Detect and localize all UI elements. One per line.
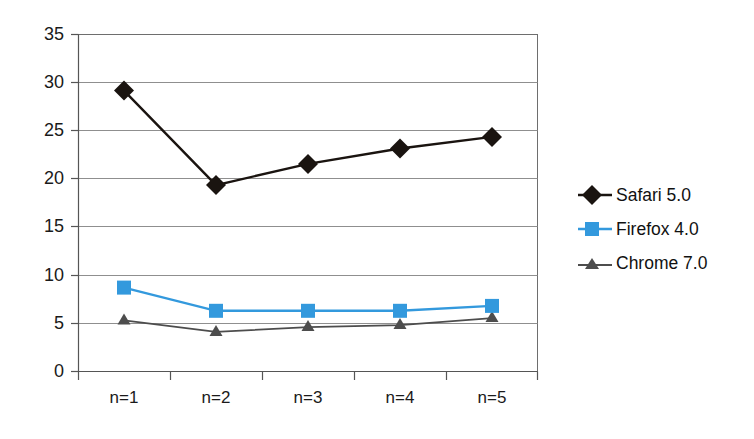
y-tick-label-10: 10 bbox=[18, 266, 64, 284]
square-marker-icon bbox=[578, 218, 612, 240]
legend-label-chrome: Chrome 7.0 bbox=[612, 253, 707, 274]
x-tick-label-n5: n=5 bbox=[446, 389, 538, 407]
legend-label-firefox: Firefox 4.0 bbox=[612, 219, 699, 240]
y-tick-label-15: 15 bbox=[18, 217, 64, 235]
chart-legend: Safari 5.0 Firefox 4.0 Chrome 7.0 bbox=[578, 178, 754, 280]
y-tick-label-30: 30 bbox=[18, 73, 64, 91]
y-tick-label-5: 5 bbox=[18, 314, 64, 332]
y-tick-label-25: 25 bbox=[18, 121, 64, 139]
y-tick-label-0: 0 bbox=[18, 362, 64, 380]
chart-container: 35 30 25 20 15 10 5 0 n=1 n=2 n=3 n=4 n=… bbox=[0, 0, 754, 439]
y-tick-label-20: 20 bbox=[18, 169, 64, 187]
x-tick-label-n4: n=4 bbox=[354, 389, 446, 407]
y-axis bbox=[71, 35, 79, 372]
legend-item-firefox: Firefox 4.0 bbox=[578, 212, 754, 246]
legend-item-safari: Safari 5.0 bbox=[578, 178, 754, 212]
legend-item-chrome: Chrome 7.0 bbox=[578, 246, 754, 280]
x-tick-label-n1: n=1 bbox=[78, 389, 170, 407]
triangle-marker-icon bbox=[578, 252, 612, 274]
x-tick-label-n3: n=3 bbox=[262, 389, 354, 407]
y-tick-label-35: 35 bbox=[18, 25, 64, 43]
legend-label-safari: Safari 5.0 bbox=[612, 185, 691, 206]
x-axis bbox=[79, 372, 538, 381]
diamond-marker-icon bbox=[578, 184, 612, 206]
x-tick-label-n2: n=2 bbox=[170, 389, 262, 407]
